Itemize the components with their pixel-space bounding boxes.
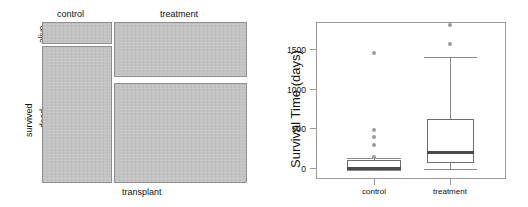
boxplot-treatment-upper-whisker bbox=[450, 57, 451, 119]
boxplot-y-tick-label-1000: 1000 bbox=[277, 85, 306, 95]
mosaic-plot-panel: control treatment alive dead survived tr… bbox=[0, 0, 264, 207]
boxplot-treatment-box[interactable] bbox=[427, 119, 474, 163]
mosaic-column-label-treatment: treatment bbox=[160, 10, 198, 19]
mosaic-y-axis-label: survived bbox=[25, 103, 34, 137]
boxplot-y-tick-label-0: 0 bbox=[280, 164, 306, 174]
boxplot-control-outlier[interactable] bbox=[372, 51, 376, 55]
mosaic-tile-treatment-dead[interactable] bbox=[114, 83, 247, 183]
boxplot-control-outlier[interactable] bbox=[372, 135, 376, 139]
boxplot-control-lower-cap bbox=[347, 170, 401, 171]
boxplot-x-tick-label-treatment: treatment bbox=[420, 187, 480, 196]
boxplot-treatment-outlier[interactable] bbox=[448, 42, 452, 46]
boxplot-treatment-lower-cap bbox=[424, 169, 477, 170]
boxplot-panel: Survival Time (days) 0 500 1000 1500 bbox=[264, 0, 528, 207]
mosaic-tile-treatment-alive[interactable] bbox=[114, 22, 247, 77]
mosaic-tile-texture bbox=[115, 84, 246, 182]
boxplot-treatment-median bbox=[427, 151, 474, 154]
mosaic-tile-texture bbox=[43, 23, 111, 43]
mosaic-x-axis-label: transplant bbox=[122, 188, 162, 197]
boxplot-y-tick-label-500: 500 bbox=[280, 124, 306, 134]
boxplot-y-axis-title: Survival Time (days) bbox=[288, 50, 303, 168]
boxplot-control-outlier[interactable] bbox=[372, 128, 376, 132]
mosaic-column-label-control: control bbox=[57, 10, 84, 19]
mosaic-tile-control-alive[interactable] bbox=[42, 22, 112, 44]
boxplot-plot-frame bbox=[316, 22, 506, 179]
mosaic-tile-control-dead[interactable] bbox=[42, 46, 112, 183]
boxplot-control-outlier[interactable] bbox=[372, 143, 376, 147]
mosaic-tile-texture bbox=[115, 23, 246, 76]
boxplot-x-tick-mark-treatment bbox=[450, 179, 451, 185]
mosaic-tile-texture bbox=[43, 47, 111, 182]
boxplot-treatment-outlier[interactable] bbox=[448, 23, 452, 27]
boxplot-x-tick-label-control: control bbox=[344, 187, 404, 196]
figure-root: control treatment alive dead survived tr… bbox=[0, 0, 528, 207]
boxplot-control-outlier[interactable] bbox=[372, 155, 376, 159]
boxplot-x-tick-mark-control bbox=[374, 179, 375, 185]
boxplot-y-tick-label-1500: 1500 bbox=[277, 45, 306, 55]
